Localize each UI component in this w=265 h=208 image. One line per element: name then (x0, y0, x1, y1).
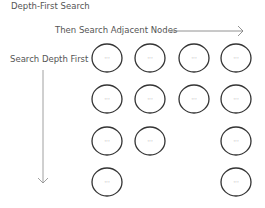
node-label: ··· (104, 95, 110, 102)
node-label: ··· (147, 137, 153, 144)
node-label: ··· (233, 54, 239, 61)
horizontal-arrow-icon (170, 26, 243, 36)
node-label: ··· (233, 178, 239, 185)
graph-node: ··· (179, 85, 209, 113)
graph-node: ··· (135, 85, 165, 113)
node-label: ··· (191, 95, 197, 102)
node-label: ··· (104, 54, 110, 61)
graph-node: ··· (92, 168, 122, 196)
vertical-arrow-icon (38, 70, 48, 183)
graph-node: ··· (135, 44, 165, 72)
node-label: ··· (233, 137, 239, 144)
node-label: ··· (147, 95, 153, 102)
graph-node: ··· (221, 44, 251, 72)
graph-node: ··· (92, 85, 122, 113)
node-label: ··· (104, 178, 110, 185)
node-label: ··· (104, 137, 110, 144)
graph-node: ··· (179, 44, 209, 72)
graph-node: ··· (221, 85, 251, 113)
graph-node: ··· (92, 127, 122, 155)
node-label: ··· (191, 54, 197, 61)
graph-node: ··· (92, 44, 122, 72)
diagram-canvas: ······································· (0, 0, 265, 208)
graph-node: ··· (135, 127, 165, 155)
node-label: ··· (147, 54, 153, 61)
graph-node: ··· (221, 127, 251, 155)
graph-node: ··· (221, 168, 251, 196)
node-label: ··· (233, 95, 239, 102)
